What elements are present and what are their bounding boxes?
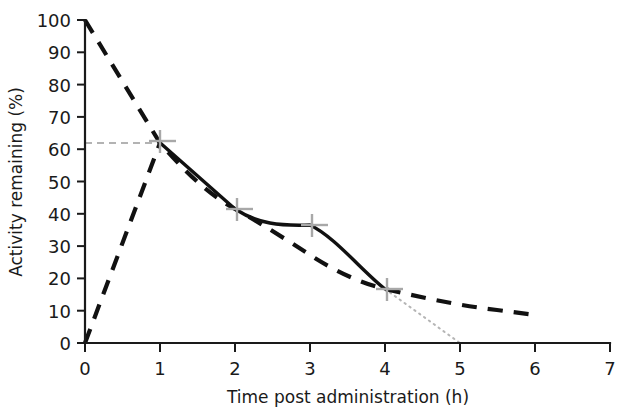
error-bar-marker (376, 278, 403, 301)
x-tick-label: 1 (154, 358, 165, 379)
activity-remaining-chart: 100 90 80 70 60 50 40 30 20 10 0 0 1 2 3… (0, 0, 624, 416)
plot-area (85, 20, 535, 343)
y-tick-label: 100 (37, 10, 71, 31)
x-axis-ticks (85, 343, 610, 352)
x-tick-label: 7 (604, 358, 615, 379)
y-axis-title: Activity remaining (%) (6, 87, 26, 277)
series-observed-solid (158, 141, 385, 289)
y-tick-label: 10 (48, 301, 71, 322)
x-tick-label: 3 (304, 358, 315, 379)
y-tick-label: 70 (48, 107, 71, 128)
axes: 100 90 80 70 60 50 40 30 20 10 0 0 1 2 3… (6, 10, 616, 407)
y-axis-ticks (77, 20, 85, 343)
x-tick-label: 5 (454, 358, 465, 379)
y-tick-label: 90 (48, 42, 71, 63)
y-tick-label: 30 (48, 236, 71, 257)
y-tick-label: 50 (48, 172, 71, 193)
x-tick-label: 4 (379, 358, 390, 379)
y-tick-label: 0 (60, 333, 71, 354)
y-tick-label: 80 (48, 75, 71, 96)
x-axis-tick-labels: 0 1 2 3 4 5 6 7 (79, 358, 615, 379)
y-tick-label: 60 (48, 139, 71, 160)
y-tick-label: 40 (48, 204, 71, 225)
series-uptake-dashed (85, 143, 160, 343)
x-axis-title: Time post administration (h) (226, 387, 469, 407)
x-tick-label: 2 (229, 358, 240, 379)
y-axis-tick-labels: 100 90 80 70 60 50 40 30 20 10 0 (37, 10, 71, 354)
x-tick-label: 6 (529, 358, 540, 379)
error-bar-markers (149, 130, 403, 301)
x-tick-label: 0 (79, 358, 90, 379)
y-tick-label: 20 (48, 268, 71, 289)
